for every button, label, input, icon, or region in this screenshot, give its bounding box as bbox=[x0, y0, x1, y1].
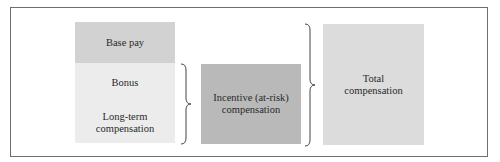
total-compensation-label: Total compensation bbox=[344, 73, 402, 97]
brace-icon bbox=[302, 22, 322, 148]
incentive-compensation-label: Incentive (at-risk) compensation bbox=[213, 92, 289, 116]
brace-icon bbox=[178, 62, 198, 146]
incentive-compensation-box: Incentive (at-risk) compensation bbox=[201, 64, 301, 144]
bonus-label: Bonus bbox=[112, 77, 139, 89]
long-term-compensation-label: Long-term compensation bbox=[96, 111, 154, 135]
long-term-compensation-box: Long-term compensation bbox=[75, 103, 175, 143]
bonus-box: Bonus bbox=[75, 63, 175, 103]
base-pay-box: Base pay bbox=[75, 22, 175, 63]
base-pay-label: Base pay bbox=[106, 37, 144, 49]
total-compensation-box: Total compensation bbox=[323, 24, 424, 145]
